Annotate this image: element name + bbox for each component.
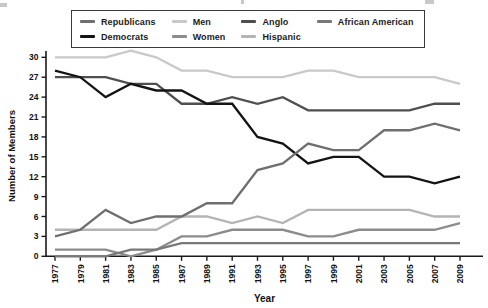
x-tick-label: 1977 <box>50 264 60 283</box>
x-tick-label: 1997 <box>303 264 313 283</box>
y-tick-label: 6 <box>34 212 39 222</box>
x-tick-label: 1999 <box>329 264 339 283</box>
y-tick-label: 30 <box>29 52 39 62</box>
y-tick-label: 21 <box>29 112 39 122</box>
x-tick-label: 2009 <box>455 264 465 283</box>
y-tick-label: 3 <box>34 231 39 241</box>
series-line-women <box>55 223 460 256</box>
x-tick-label: 1983 <box>126 264 136 283</box>
series-line-hispanic <box>55 210 460 230</box>
y-tick-label: 12 <box>29 172 39 182</box>
x-tick-label: 2003 <box>379 264 389 283</box>
series-line-african-american <box>55 243 460 256</box>
y-tick-label: 15 <box>29 152 39 162</box>
y-tick-label: 24 <box>29 92 39 102</box>
y-tick-label: 0 <box>34 251 39 261</box>
y-axis-title: Number of Members <box>6 110 17 202</box>
y-tick-label: 9 <box>34 192 39 202</box>
chart-figure: RepublicansDemocratsMenWomenAngloHispani… <box>0 0 488 308</box>
x-tick-label: 2007 <box>430 264 440 283</box>
x-tick-label: 1985 <box>151 264 161 283</box>
x-tick-label: 1993 <box>253 264 263 283</box>
x-tick-label: 1981 <box>101 264 111 283</box>
y-tick-label: 18 <box>29 132 39 142</box>
x-tick-label: 1979 <box>76 264 86 283</box>
y-tick-label: 27 <box>29 72 39 82</box>
series-line-anglo <box>55 77 460 110</box>
x-axis-title: Year <box>46 293 483 304</box>
series-line-republicans <box>55 124 460 237</box>
x-tick-label: 2005 <box>405 264 415 283</box>
x-tick-label: 2001 <box>354 264 364 283</box>
x-tick-label: 1991 <box>227 264 237 283</box>
x-tick-label: 1987 <box>177 264 187 283</box>
chart-svg: 0369121518212427301977197919811983198519… <box>0 0 488 308</box>
x-tick-label: 1995 <box>278 264 288 283</box>
series-line-democrats <box>55 71 460 184</box>
x-tick-label: 1989 <box>202 264 212 283</box>
